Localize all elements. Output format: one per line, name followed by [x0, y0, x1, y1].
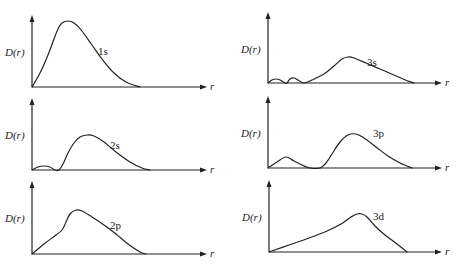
orbital-label: 2s	[110, 139, 120, 151]
x-axis-arrow-icon	[435, 250, 442, 255]
y-axis-label: D(r)	[4, 46, 25, 59]
plot-1s: D(r)r1s	[4, 15, 215, 92]
distribution-curve	[32, 135, 150, 171]
orbital-label: 3d	[373, 210, 385, 222]
distribution-curve	[268, 57, 414, 84]
y-axis-arrow-icon	[266, 12, 271, 19]
distribution-curve	[32, 21, 140, 87]
x-axis-arrow-icon	[435, 166, 442, 171]
y-axis-arrow-icon	[267, 180, 272, 187]
y-axis-label: D(r)	[4, 212, 25, 225]
x-axis-arrow-icon	[200, 85, 207, 90]
y-axis-label: D(r)	[4, 129, 25, 142]
x-axis-label: r	[445, 76, 450, 88]
y-axis-arrow-icon	[30, 98, 35, 105]
x-axis-arrow-icon	[200, 168, 207, 173]
y-axis-arrow-icon	[30, 181, 35, 188]
orbital-label: 3s	[367, 56, 377, 68]
x-axis-arrow-icon	[435, 81, 442, 86]
plot-2p: D(r)r2p	[4, 181, 215, 259]
plot-3p: D(r)r3p	[240, 96, 450, 173]
x-axis-label: r	[210, 80, 215, 92]
distribution-curve	[269, 214, 407, 252]
distribution-curve	[268, 134, 412, 169]
orbital-label: 3p	[373, 127, 385, 139]
plot-3d: D(r)r3d	[241, 180, 450, 257]
x-axis-label: r	[210, 163, 215, 175]
x-axis-label: r	[210, 247, 215, 259]
y-axis-label: D(r)	[240, 43, 261, 56]
radial-distribution-figure: D(r)r1sD(r)r2sD(r)r2pD(r)r3sD(r)r3pD(r)r…	[0, 0, 457, 266]
x-axis-arrow-icon	[200, 252, 207, 257]
distribution-curve	[32, 210, 146, 254]
y-axis-arrow-icon	[266, 96, 271, 103]
y-axis-label: D(r)	[241, 211, 262, 224]
x-axis-label: r	[445, 245, 450, 257]
y-axis-arrow-icon	[30, 15, 35, 22]
y-axis-label: D(r)	[240, 127, 261, 140]
plot-3s: D(r)r3s	[240, 12, 450, 88]
orbital-label: 1s	[98, 45, 108, 57]
x-axis-label: r	[445, 161, 450, 173]
plot-2s: D(r)r2s	[4, 98, 215, 175]
orbital-label: 2p	[110, 219, 122, 231]
